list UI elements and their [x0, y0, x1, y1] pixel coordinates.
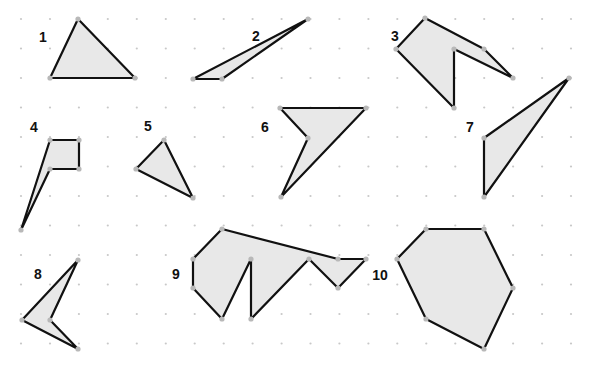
grid-dot: [541, 254, 543, 256]
grid-dot: [194, 18, 196, 20]
grid-dot: [570, 254, 572, 256]
grid-dot: [541, 224, 543, 226]
vertex-point: [305, 16, 310, 21]
grid-dot: [425, 342, 427, 344]
grid-dot: [165, 342, 167, 344]
polygon-shape: [396, 18, 513, 108]
grid-dot: [252, 165, 254, 167]
grid-dot: [367, 136, 369, 138]
grid-dot: [512, 18, 514, 20]
vertex-point: [161, 137, 166, 142]
grid-dot: [338, 18, 340, 20]
vertex-point: [423, 316, 428, 321]
grid-dot: [425, 136, 427, 138]
grid-dot: [78, 342, 80, 344]
grid-dot: [223, 195, 225, 197]
grid-dot: [107, 254, 109, 256]
grid-dot: [194, 165, 196, 167]
grid-dot: [194, 342, 196, 344]
polygon-1: 1: [39, 16, 137, 80]
grid-dot: [136, 313, 138, 315]
grid-dot: [49, 18, 51, 20]
vertex-point: [190, 256, 195, 261]
vertex-point: [305, 135, 310, 140]
vertex-point: [47, 166, 52, 171]
grid-dot: [367, 342, 369, 344]
grid-dot: [136, 254, 138, 256]
vertex-point: [278, 194, 283, 199]
grid-dot: [252, 106, 254, 108]
grid-dot: [107, 18, 109, 20]
polygon-shapes: 12345678910: [18, 15, 571, 351]
grid-dot: [541, 136, 543, 138]
grid-dot: [136, 224, 138, 226]
grid-dot: [570, 106, 572, 108]
grid-dot: [78, 195, 80, 197]
vertex-point: [219, 76, 224, 81]
vertex-point: [481, 226, 486, 231]
grid-dot: [338, 342, 340, 344]
polygon-shape: [50, 19, 135, 78]
polygon-5: 5: [133, 118, 195, 201]
grid-dot: [252, 77, 254, 79]
vertex-point: [190, 285, 195, 290]
grid-dot: [425, 224, 427, 226]
grid-dot: [512, 195, 514, 197]
grid-dot: [396, 283, 398, 285]
polygon-7: 7: [466, 75, 571, 199]
grid-dot: [570, 165, 572, 167]
grid-dot: [281, 224, 283, 226]
shape-number-label: 7: [466, 119, 474, 135]
grid-dot: [165, 18, 167, 20]
grid-dot: [396, 77, 398, 79]
grid-dot: [309, 342, 311, 344]
vertex-point: [18, 227, 23, 232]
vertex-point: [481, 46, 486, 51]
grid-dot: [223, 47, 225, 49]
grid-dot: [78, 283, 80, 285]
vertex-point: [47, 137, 52, 142]
vertex-point: [423, 226, 428, 231]
polygon-10: 10: [372, 226, 515, 351]
grid-dot: [223, 106, 225, 108]
vertex-point: [306, 256, 311, 261]
grid-dot: [136, 195, 138, 197]
polygon-shape: [193, 19, 308, 79]
vertex-point: [47, 75, 52, 80]
grid-dot: [512, 106, 514, 108]
grid-dot: [49, 106, 51, 108]
vertex-point: [75, 346, 80, 351]
grid-dot: [338, 224, 340, 226]
grid-dot: [136, 47, 138, 49]
grid-dot: [136, 18, 138, 20]
grid-dot: [338, 254, 340, 256]
grid-dot: [338, 195, 340, 197]
grid-dot: [367, 77, 369, 79]
grid-dot: [165, 313, 167, 315]
grid-dot: [396, 165, 398, 167]
grid-dot: [194, 313, 196, 315]
vertex-point: [510, 75, 515, 80]
grid-dot: [165, 283, 167, 285]
grid-dot: [252, 224, 254, 226]
vertex-point: [510, 285, 515, 290]
grid-dot: [20, 47, 22, 49]
grid-dot: [281, 313, 283, 315]
grid-dot: [541, 313, 543, 315]
grid-dot: [396, 136, 398, 138]
shape-number-label: 9: [172, 266, 180, 282]
grid-dot: [570, 342, 572, 344]
polygon-shape: [136, 140, 193, 198]
shape-number-label: 2: [252, 28, 260, 44]
shape-number-label: 4: [30, 119, 38, 135]
grid-dot: [20, 195, 22, 197]
grid-dot: [107, 195, 109, 197]
vertex-point: [219, 316, 224, 321]
polygon-6: 6: [261, 105, 368, 199]
polygon-9: 9: [172, 226, 368, 321]
vertex-point: [190, 76, 195, 81]
shape-number-label: 6: [261, 119, 269, 135]
grid-dot: [541, 283, 543, 285]
vertex-point: [481, 135, 486, 140]
grid-dot: [223, 224, 225, 226]
